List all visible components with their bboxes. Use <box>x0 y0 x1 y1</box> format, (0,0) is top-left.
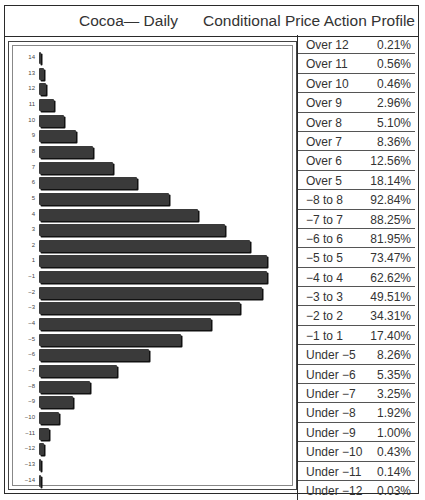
bar <box>39 115 64 127</box>
bar-row: −11 <box>13 427 292 443</box>
y-axis-tick-label: 11 <box>13 98 35 111</box>
bar <box>39 349 149 361</box>
bar-row: −1 <box>13 270 292 286</box>
bar-row: 11 <box>13 98 292 114</box>
y-axis-tick-label: −9 <box>13 395 35 408</box>
bar-row: 8 <box>13 145 292 161</box>
probability-value: 0.14% <box>377 465 411 479</box>
range-label: Under −11 <box>306 465 361 479</box>
bar-row: −13 <box>13 458 292 474</box>
probability-value: 18.14% <box>370 174 411 188</box>
bar-row: −4 <box>13 317 292 333</box>
probability-value: 81.95% <box>370 232 411 246</box>
y-axis-tick-label: −4 <box>13 317 35 330</box>
bar <box>39 130 76 142</box>
bar <box>39 224 225 236</box>
probability-value: 1.92% <box>377 406 411 420</box>
bar <box>39 177 137 189</box>
probability-value: 49.51% <box>370 290 411 304</box>
table-row: Over 612.56% <box>298 151 415 170</box>
probability-value: 88.25% <box>370 213 411 227</box>
bar-row: −12 <box>13 442 292 458</box>
bar <box>39 475 41 487</box>
y-axis-tick-label: 10 <box>13 114 35 127</box>
table-row: Over 92.96% <box>298 93 415 112</box>
y-axis-tick-label: 2 <box>13 239 35 252</box>
bar-row: 6 <box>13 176 292 192</box>
bar-row: −14 <box>13 474 292 490</box>
range-label: Under −12 <box>306 484 362 498</box>
y-axis-tick-label: −11 <box>13 427 35 440</box>
table-row: Over 518.14% <box>298 171 415 190</box>
y-axis-tick-label: 6 <box>13 176 35 189</box>
y-axis-tick-label: 8 <box>13 145 35 158</box>
table-row: Under −120.03% <box>298 481 415 500</box>
probability-value: 17.40% <box>370 329 411 343</box>
bar-row: −3 <box>13 301 292 317</box>
range-label: Over 8 <box>306 116 342 130</box>
bar-row: 5 <box>13 192 292 208</box>
table-row: −4 to 462.62% <box>298 268 415 287</box>
range-label: Under −10 <box>306 445 362 459</box>
probability-value: 73.47% <box>370 251 411 265</box>
bar <box>39 255 267 267</box>
probability-value: 1.00% <box>377 426 411 440</box>
bar-row: −6 <box>13 348 292 364</box>
bar-row: −8 <box>13 380 292 396</box>
y-axis-tick-label: 3 <box>13 223 35 236</box>
probability-value: 5.10% <box>377 116 411 130</box>
range-label: −8 to 8 <box>306 193 343 207</box>
table-row: Under −110.14% <box>298 462 415 481</box>
probability-value: 12.56% <box>370 154 411 168</box>
y-axis-tick-label: 5 <box>13 192 35 205</box>
bar-row: −9 <box>13 395 292 411</box>
probability-value: 0.43% <box>377 445 411 459</box>
bar-row: 13 <box>13 67 292 83</box>
range-label: Over 5 <box>306 174 342 188</box>
table-row: Under −81.92% <box>298 403 415 422</box>
probability-value: 92.84% <box>370 193 411 207</box>
bar <box>39 240 250 252</box>
range-label: −2 to 2 <box>306 309 343 323</box>
table-row: Under −100.43% <box>298 442 415 461</box>
probability-table: Over 120.21%Over 110.56%Over 100.46%Over… <box>297 35 415 500</box>
range-label: Over 12 <box>306 38 349 52</box>
bar-row: 4 <box>13 208 292 224</box>
range-label: Over 6 <box>306 154 342 168</box>
probability-value: 0.21% <box>377 38 411 52</box>
y-axis-tick-label: 9 <box>13 129 35 142</box>
bar <box>39 381 90 393</box>
y-axis-tick-label: −13 <box>13 458 35 471</box>
bar <box>39 428 49 440</box>
bar-row: −5 <box>13 333 292 349</box>
table-row: Under −58.26% <box>298 345 415 364</box>
bar-row: 3 <box>13 223 292 239</box>
y-axis-tick-label: 7 <box>13 161 35 174</box>
table-row: −1 to 117.40% <box>298 326 415 345</box>
range-label: Over 10 <box>306 77 349 91</box>
range-label: Under −7 <box>306 387 356 401</box>
bar <box>39 334 181 346</box>
bar <box>39 287 262 299</box>
table-row: Over 110.56% <box>298 54 415 73</box>
range-label: Under −8 <box>306 406 356 420</box>
table-row: −8 to 892.84% <box>298 190 415 209</box>
y-axis-tick-label: 13 <box>13 67 35 80</box>
y-axis-tick-label: 1 <box>13 254 35 267</box>
probability-value: 34.31% <box>370 309 411 323</box>
bar <box>39 52 41 64</box>
bar <box>39 83 46 95</box>
bar-row: 1 <box>13 254 292 270</box>
table-row: Under −91.00% <box>298 423 415 442</box>
figure-header: Cocoa— Daily Conditional Price Action Pr… <box>5 6 418 37</box>
bar-row: 14 <box>13 51 292 67</box>
bar-row: −7 <box>13 364 292 380</box>
range-label: Under −5 <box>306 348 356 362</box>
range-label: −6 to 6 <box>306 232 343 246</box>
probability-value: 2.96% <box>377 96 411 110</box>
bar <box>39 193 169 205</box>
probability-value: 62.62% <box>370 271 411 285</box>
range-label: −4 to 4 <box>306 271 343 285</box>
probability-value: 0.46% <box>377 77 411 91</box>
range-label: −7 to 7 <box>306 213 343 227</box>
